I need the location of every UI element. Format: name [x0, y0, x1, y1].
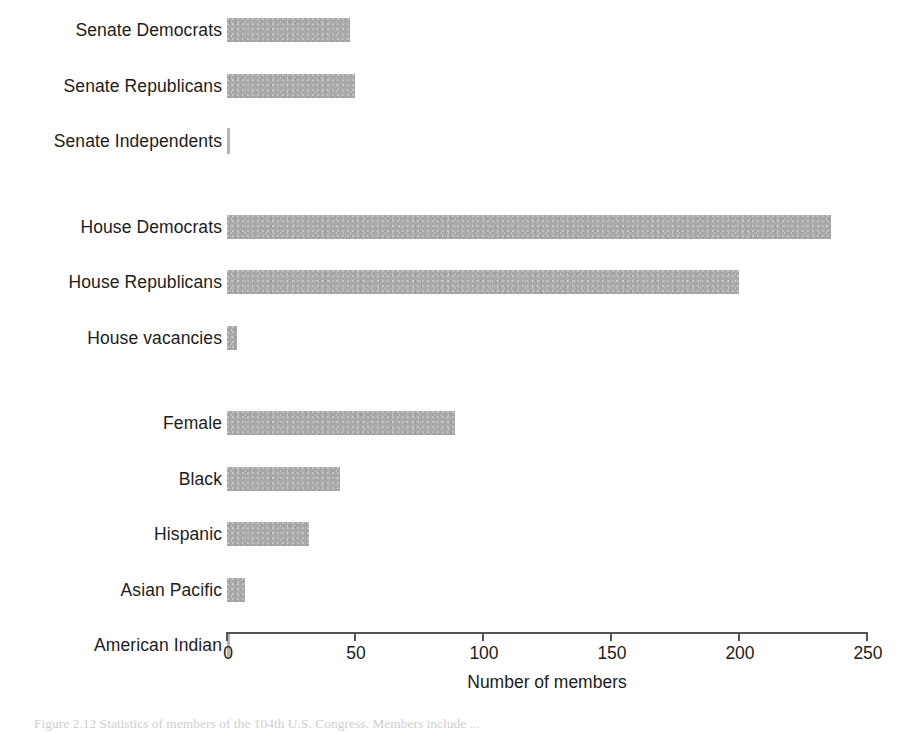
chart-row: House Democrats: [0, 210, 908, 244]
bar-track: [227, 406, 867, 440]
bar-chart-figure: Senate DemocratsSenate RepublicansSenate…: [0, 0, 908, 732]
category-label: Female: [0, 406, 222, 440]
category-label: Senate Independents: [0, 124, 222, 158]
bar-track: [227, 517, 867, 551]
chart-row: Female: [0, 406, 908, 440]
x-axis-tick: [610, 632, 612, 641]
bar-track: [227, 124, 867, 158]
bar: [227, 467, 340, 491]
chart-row: Senate Independents: [0, 124, 908, 158]
chart-row: Black: [0, 462, 908, 496]
category-label: Hispanic: [0, 517, 222, 551]
bar: [227, 270, 739, 294]
x-axis-tick: [482, 632, 484, 641]
chart-row: Senate Republicans: [0, 69, 908, 103]
plot-area: Senate DemocratsSenate RepublicansSenate…: [0, 0, 908, 640]
bar-track: [227, 13, 867, 47]
bar-track: [227, 321, 867, 355]
bar: [227, 215, 831, 239]
x-axis-tick: [866, 632, 868, 641]
bar-track: [227, 462, 867, 496]
x-axis-tick: [226, 632, 228, 641]
x-axis-tick: [354, 632, 356, 641]
category-label: House vacancies: [0, 321, 222, 355]
figure-caption: Figure 2.12 Statistics of members of the…: [34, 716, 874, 732]
x-axis-line: [227, 632, 867, 634]
bar-track: [227, 210, 867, 244]
x-axis-tick-label: 250: [838, 643, 898, 664]
x-axis-tick-label: 50: [326, 643, 386, 664]
category-label: House Democrats: [0, 210, 222, 244]
x-axis-tick-label: 0: [198, 643, 258, 664]
chart-row: Asian Pacific: [0, 573, 908, 607]
bar: [227, 522, 309, 546]
chart-row: Hispanic: [0, 517, 908, 551]
x-axis-tick: [738, 632, 740, 641]
bar-track: [227, 573, 867, 607]
x-axis-tick-label: 150: [582, 643, 642, 664]
chart-row: Senate Democrats: [0, 13, 908, 47]
category-label: Asian Pacific: [0, 573, 222, 607]
bar: [227, 128, 230, 154]
category-label: Senate Democrats: [0, 13, 222, 47]
chart-row: House Republicans: [0, 265, 908, 299]
bar: [227, 578, 245, 602]
chart-row: House vacancies: [0, 321, 908, 355]
category-label: House Republicans: [0, 265, 222, 299]
bar-track: [227, 265, 867, 299]
bar: [227, 74, 355, 98]
bar-track: [227, 69, 867, 103]
category-label: Senate Republicans: [0, 69, 222, 103]
category-label: Black: [0, 462, 222, 496]
bar: [227, 18, 350, 42]
x-axis-tick-label: 100: [454, 643, 514, 664]
bar: [227, 326, 237, 350]
bar: [227, 411, 455, 435]
category-label: American Indian: [0, 628, 222, 662]
x-axis-title: Number of members: [227, 672, 867, 693]
x-axis-tick-label: 200: [710, 643, 770, 664]
